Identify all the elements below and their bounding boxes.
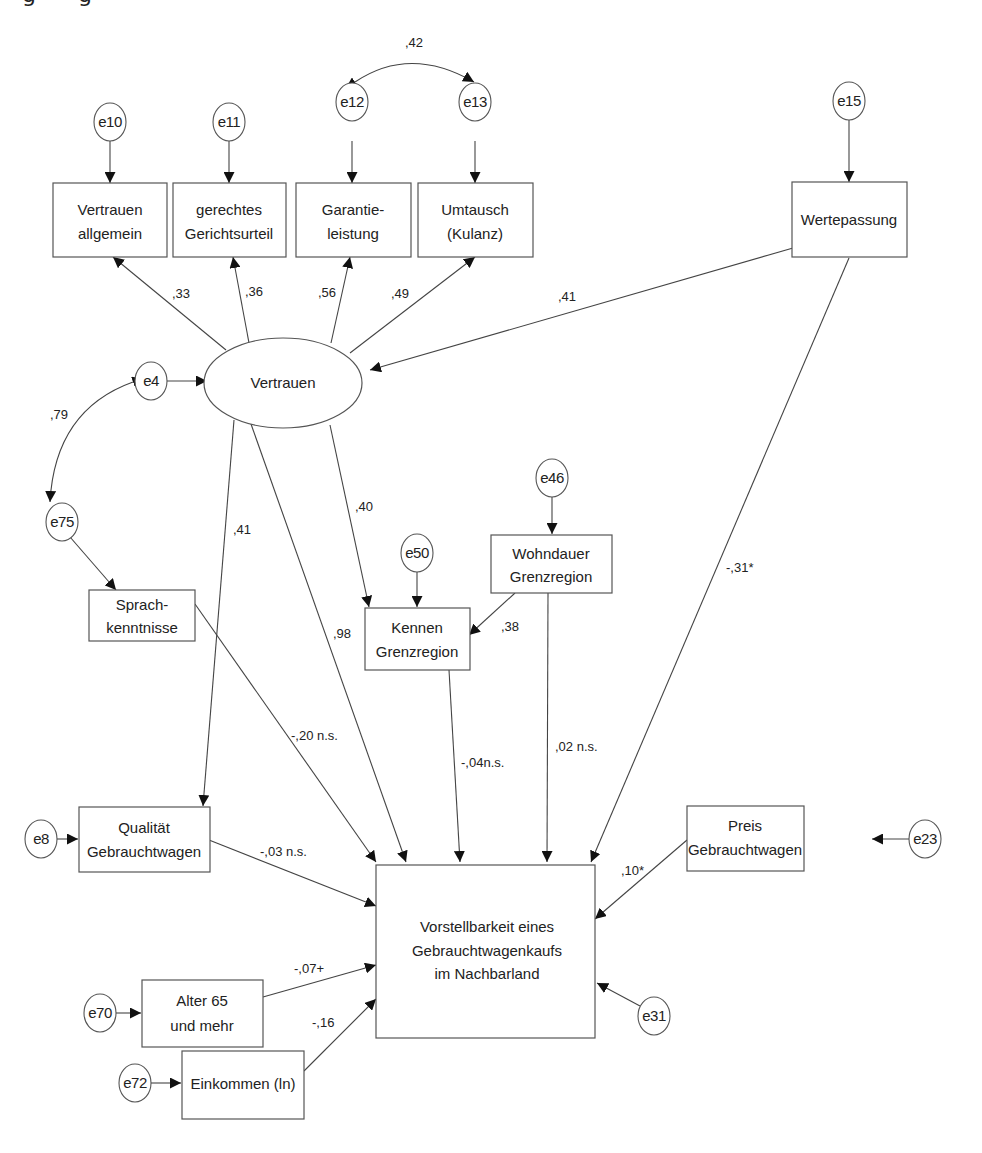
path-preis-outcome <box>595 840 687 919</box>
error-label: e75 <box>50 513 74 530</box>
covariance-e12-e13 <box>355 64 474 83</box>
error-e4: e4 <box>135 362 167 400</box>
coef-alter-outcome: -,07+ <box>294 961 324 976</box>
error-e10: e10 <box>94 103 126 141</box>
latent-vertrauen: Vertrauen <box>204 338 362 428</box>
path-kennen-outcome <box>449 670 460 862</box>
path-wohndauer-outcome <box>547 593 548 862</box>
error-label: e70 <box>88 1004 112 1021</box>
error-label: e72 <box>123 1074 147 1091</box>
error-e12: e12 <box>336 83 368 121</box>
loading-gerichtsurteil <box>233 257 249 343</box>
box-label-line: Gebrauchtwagen <box>87 843 201 860</box>
box-sprachkenntnisse: Sprach- kenntnisse <box>89 590 195 641</box>
indicator-gerechtes-gerichtsurteil: gerechtes Gerichtsurteil <box>173 183 286 257</box>
box-label-line: Garantie- <box>322 201 385 218</box>
box-wohndauer-grenzregion: Wohndauer Grenzregion <box>491 535 612 593</box>
coef-loading-3: ,56 <box>318 285 336 300</box>
indicator-umtausch: Umtausch (Kulanz) <box>418 183 533 257</box>
path-vertrauen-kennen <box>330 425 369 607</box>
coef-cov-e12-e13: ,42 <box>405 35 423 50</box>
error-label: e12 <box>340 93 364 110</box>
box-label-line: gerechtes <box>196 201 262 218</box>
box-label-line: Gebrauchtwagenkaufs <box>412 942 562 959</box>
error-e23: e23 <box>909 820 941 858</box>
box-outcome-vorstellbarkeit: Vorstellbarkeit eines Gebrauchtwagenkauf… <box>376 865 595 1038</box>
error-label: e15 <box>837 92 861 109</box>
coef-vertrauen-kennen: ,40 <box>355 499 373 514</box>
cropped-text-fragment: g <box>78 0 92 7</box>
error-e70: e70 <box>84 994 116 1032</box>
coef-wohndauer-outcome: ,02 n.s. <box>555 739 598 754</box>
box-label-line: kenntnisse <box>106 619 178 636</box>
indicator-vertrauen-allgemein: Vertrauen allgemein <box>53 183 167 257</box>
box-label-line: allgemein <box>78 225 142 242</box>
error-e13: e13 <box>459 83 491 121</box>
loading-umtausch <box>350 257 475 353</box>
box-label-line: Vertrauen <box>77 201 142 218</box>
box-label-line: Gerichtsurteil <box>185 225 273 242</box>
path-einkommen-outcome <box>304 999 376 1071</box>
box-label-line: Vorstellbarkeit eines <box>420 918 554 935</box>
covariance-e4-e75 <box>50 382 133 502</box>
error-e72: e72 <box>119 1064 151 1102</box>
box-label-line: und mehr <box>170 1017 233 1034</box>
box-label-line: Alter 65 <box>176 992 228 1009</box>
path-e75-sprachkenntnisse <box>70 537 116 590</box>
coef-sprachkenntnisse-outcome: -,20 n.s. <box>291 728 338 743</box>
box-wertepassung: Wertepassung <box>792 182 907 257</box>
loading-vertrauen-allgemein <box>113 257 226 350</box>
coef-loading-4: ,49 <box>391 286 409 301</box>
coef-wohndauer-kennen: ,38 <box>501 619 519 634</box>
error-e75: e75 <box>46 503 78 541</box>
box-kennen-grenzregion: Kennen Grenzregion <box>365 608 470 670</box>
box-label-line: Qualität <box>118 819 171 836</box>
box-einkommen: Einkommen (ln) <box>182 1051 304 1119</box>
latent-label: Vertrauen <box>250 374 315 391</box>
box-label-line: Preis <box>728 817 762 834</box>
box-label-line: Grenzregion <box>510 568 593 585</box>
box-preis-gebrauchtwagen: Preis Gebrauchtwagen <box>687 806 804 871</box>
box-label-line: leistung <box>327 225 379 242</box>
path-vertrauen-qualitaet <box>203 420 234 806</box>
error-e50: e50 <box>401 534 433 572</box>
box-label-line: Kennen <box>391 619 443 636</box>
coef-loading-1: ,33 <box>172 286 190 301</box>
coef-einkommen-outcome: -,16 <box>312 1015 334 1030</box>
path-sprachkenntnisse-outcome <box>195 604 376 862</box>
box-label-line: Wohndauer <box>512 545 589 562</box>
coef-cov-e4-e75: ,79 <box>50 407 68 422</box>
coef-kennen-outcome: -,04n.s. <box>461 755 504 770</box>
error-label: e10 <box>98 113 122 130</box>
coef-vertrauen-qualitaet: ,41 <box>233 522 251 537</box>
error-label: e8 <box>33 830 49 847</box>
error-label: e4 <box>143 372 159 389</box>
error-label: e31 <box>642 1007 666 1024</box>
path-wertepassung-outcome <box>591 258 849 862</box>
coef-preis-outcome: ,10* <box>621 863 644 878</box>
error-e15: e15 <box>833 82 865 120</box>
box-label-line: Sprach- <box>116 596 169 613</box>
indicator-garantieleistung: Garantie- leistung <box>296 183 411 257</box>
error-e8: e8 <box>25 820 57 858</box>
error-e46: e46 <box>536 459 568 497</box>
coef-vertrauen-outcome: ,98 <box>333 626 351 641</box>
box-label-line: Wertepassung <box>801 211 897 228</box>
box-label-line: Grenzregion <box>376 643 459 660</box>
cropped-text-fragment: g <box>22 0 36 7</box>
loading-garantieleistung <box>331 257 350 343</box>
error-label: e11 <box>218 113 241 130</box>
coef-qualitaet-outcome: -,03 n.s. <box>260 844 307 859</box>
error-e11: e11 <box>213 103 245 141</box>
box-label-line: Umtausch <box>441 201 509 218</box>
error-label: e50 <box>405 544 429 561</box>
box-label-line: im Nachbarland <box>434 965 539 982</box>
coef-loading-2: ,36 <box>245 284 263 299</box>
box-qualitaet-gebrauchtwagen: Qualität Gebrauchtwagen <box>79 807 210 872</box>
coef-wertepassung-outcome: -,31* <box>726 560 753 575</box>
error-label: e23 <box>913 830 937 847</box>
sem-diagram: g g <box>0 0 982 1153</box>
box-label-line: (Kulanz) <box>447 225 503 242</box>
path-e31-outcome <box>597 983 640 1006</box>
coef-wertepassung-vertrauen: ,41 <box>558 289 576 304</box>
